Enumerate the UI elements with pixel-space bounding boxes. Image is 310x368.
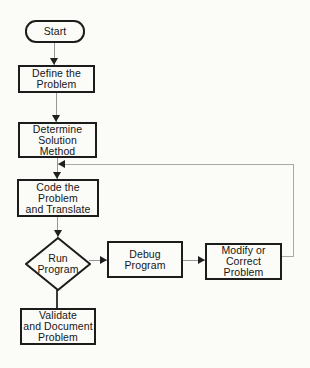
node-code-problem-translate: Code the Problem and Translate bbox=[17, 179, 99, 217]
node-debug-program-label: Debug Program bbox=[125, 249, 166, 271]
feedback-loop-vertical-segment bbox=[293, 164, 294, 257]
node-run-program: Run Program bbox=[25, 237, 91, 291]
feedback-loop-arrowhead-icon bbox=[58, 160, 65, 168]
node-start-label: Start bbox=[44, 26, 67, 37]
node-start: Start bbox=[25, 20, 85, 43]
node-validate-document-problem-label: Validate and Document Problem bbox=[23, 310, 93, 343]
edge-define-determine-arrowhead-icon bbox=[52, 115, 60, 122]
edge-code-run-arrowhead-icon bbox=[54, 230, 62, 237]
node-run-program-label: Run Program bbox=[38, 253, 79, 275]
edge-run-debug-arrowhead-icon bbox=[100, 256, 107, 264]
node-validate-document-problem: Validate and Document Problem bbox=[20, 308, 96, 345]
node-modify-correct-problem: Modify or Correct Problem bbox=[205, 243, 282, 280]
node-code-problem-translate-label: Code the Problem and Translate bbox=[26, 182, 91, 215]
feedback-loop-top-segment bbox=[58, 164, 294, 165]
node-modify-correct-problem-label: Modify or Correct Problem bbox=[221, 245, 265, 278]
edge-run-validate-line bbox=[56, 290, 58, 308]
node-define-problem-label: Define the Problem bbox=[32, 68, 81, 90]
edge-determine-code-arrowhead-icon bbox=[53, 172, 61, 179]
edge-start-define-arrowhead-icon bbox=[50, 58, 58, 65]
node-determine-solution-method-label: Determine Solution Method bbox=[33, 124, 82, 157]
flowchart: Start Define the Problem Determine Solut… bbox=[0, 0, 310, 368]
node-debug-program: Debug Program bbox=[107, 241, 183, 278]
edge-debug-modify-arrowhead-icon bbox=[198, 256, 205, 264]
node-define-problem: Define the Problem bbox=[18, 65, 95, 93]
node-determine-solution-method: Determine Solution Method bbox=[18, 122, 97, 158]
